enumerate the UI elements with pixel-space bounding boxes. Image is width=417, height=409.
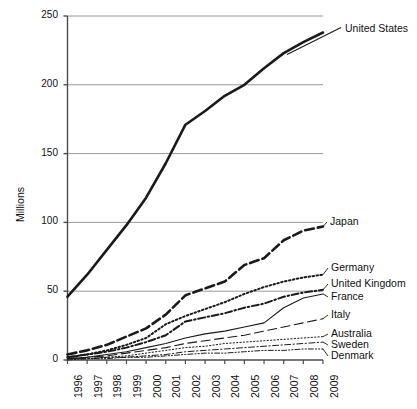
- y-axis-tick-label: 0: [16, 353, 58, 364]
- x-axis-tick-label: 2004: [229, 375, 241, 398]
- x-axis-tick-label: 1996: [72, 375, 84, 398]
- y-axis-tick-label: 200: [16, 78, 58, 89]
- line-chart: 050100150200250Millions19961997199819992…: [0, 0, 417, 409]
- y-axis-tick-label: 150: [16, 147, 58, 158]
- x-axis-tick-label: 2000: [151, 375, 163, 398]
- x-axis-tick-label: 2001: [170, 375, 182, 398]
- series-line-united-states: [68, 33, 324, 297]
- series-line-australia: [68, 337, 324, 359]
- x-axis-tick-label: 2005: [249, 375, 261, 398]
- x-axis-tick-label: 1999: [131, 375, 143, 398]
- series-label-denmark: Denmark: [331, 349, 374, 361]
- series-label-germany: Germany: [331, 261, 374, 273]
- series-label-japan: Japan: [330, 215, 359, 227]
- x-axis-tick-label: 2006: [269, 375, 281, 398]
- y-axis-tick-label: 250: [16, 9, 58, 20]
- x-axis-tick-label: 2002: [190, 375, 202, 398]
- x-axis-tick-label: 2009: [328, 375, 340, 398]
- series-label-united-states: United States: [345, 22, 408, 34]
- y-axis-tick-label: 50: [16, 284, 58, 295]
- x-axis-tick-label: 2003: [210, 375, 222, 398]
- x-axis-tick-label: 2007: [288, 375, 300, 398]
- x-axis-tick-label: 1998: [111, 375, 123, 398]
- x-axis-tick-label: 1997: [92, 375, 104, 398]
- series-label-united-kingdom: United Kingdom: [331, 277, 406, 289]
- series-line-united-kingdom: [68, 290, 324, 357]
- series-label-france: France: [331, 290, 364, 302]
- y-axis-title: Millions: [14, 187, 26, 222]
- series-line-japan: [68, 227, 324, 355]
- series-label-italy: Italy: [331, 308, 350, 320]
- x-axis-tick-label: 2008: [308, 375, 320, 398]
